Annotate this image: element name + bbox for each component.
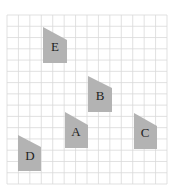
shape-b: B [88,76,112,112]
shape-c: C [134,113,157,149]
shape-e-label: E [51,39,59,54]
shape-a: A [65,112,88,148]
shape-e: E [43,27,67,63]
shape-b-label: B [96,88,105,103]
shape-d-label: D [25,148,34,163]
grid-diagram: E B A C D [0,0,178,193]
shape-c-label: C [141,125,150,140]
shape-a-label: A [71,124,81,139]
